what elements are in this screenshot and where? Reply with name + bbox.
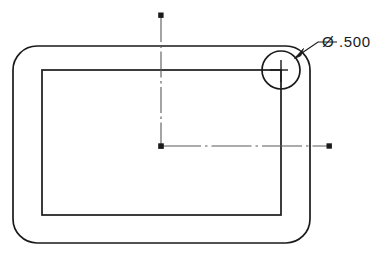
centerline-terminator-right [327, 143, 332, 148]
datum-origin-point [158, 143, 164, 149]
engineering-drawing-canvas: Ø .500 [0, 0, 388, 258]
drawing-viewport: Ø .500 [0, 0, 388, 258]
diameter-callout-label: Ø .500 [322, 33, 371, 50]
circle-center-crosshair [270, 60, 288, 82]
centerline-terminator-top [158, 13, 163, 18]
